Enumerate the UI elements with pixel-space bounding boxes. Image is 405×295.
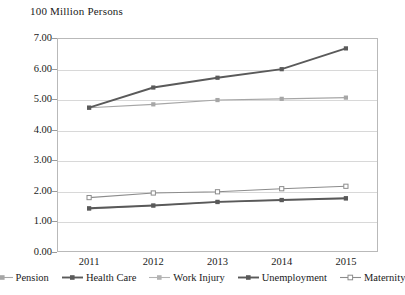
legend-label: Work Injury: [173, 272, 224, 283]
y-axis-tick-mark: [52, 99, 57, 100]
legend-label: Maternity: [364, 272, 405, 283]
y-axis-tick-mark: [52, 160, 57, 161]
y-axis-tick-label: 6.00: [6, 64, 52, 74]
legend-key-icon: [340, 273, 361, 282]
chart-axis-title: 100 Million Persons: [30, 5, 123, 17]
legend-label: Pension: [16, 272, 49, 283]
legend-key-icon: [0, 273, 13, 282]
legend-key-icon: [238, 273, 259, 282]
legend-item-unemployment[interactable]: Unemployment: [238, 272, 327, 283]
y-axis-tick-label: 2.00: [6, 186, 52, 196]
y-axis-tick-label: 3.00: [6, 155, 52, 165]
legend-label: Health Care: [86, 272, 136, 283]
gridline: [58, 161, 377, 162]
legend-item-maternity[interactable]: Maternity: [340, 272, 405, 283]
y-axis-tick-label: 7.00: [6, 33, 52, 43]
y-axis-tick-mark: [52, 191, 57, 192]
y-axis-tick-label: 5.00: [6, 94, 52, 104]
gridline: [58, 100, 377, 101]
y-axis-tick-label: 0.00: [6, 247, 52, 257]
x-axis-tick-label: 2015: [321, 256, 371, 267]
y-axis-tick-mark: [52, 69, 57, 70]
legend-item-work-injury[interactable]: Work Injury: [149, 272, 224, 283]
y-axis-tick-label: 4.00: [6, 125, 52, 135]
plot-area: [57, 38, 378, 252]
x-axis-tick-label: 2012: [128, 256, 178, 267]
legend-key-icon: [149, 273, 170, 282]
y-axis-tick-mark: [52, 252, 57, 253]
y-axis-tick-mark: [52, 221, 57, 222]
y-axis-tick-mark: [52, 38, 57, 39]
legend-item-health-care[interactable]: Health Care: [62, 272, 136, 283]
x-axis-tick-label: 2013: [193, 256, 243, 267]
gridline: [58, 192, 377, 193]
x-axis-tick-label: 2011: [64, 256, 114, 267]
y-axis-tick-label: 1.00: [6, 216, 52, 226]
x-axis-tick-label: 2014: [257, 256, 307, 267]
legend-key-icon: [62, 273, 83, 282]
legend-item-pension[interactable]: Pension: [0, 272, 49, 283]
gridline: [58, 222, 377, 223]
chart-legend: PensionHealth CareWork InjuryUnemploymen…: [0, 272, 397, 283]
legend-label: Unemployment: [262, 272, 327, 283]
gridline: [58, 131, 377, 132]
gridline: [58, 70, 377, 71]
y-axis-tick-mark: [52, 130, 57, 131]
